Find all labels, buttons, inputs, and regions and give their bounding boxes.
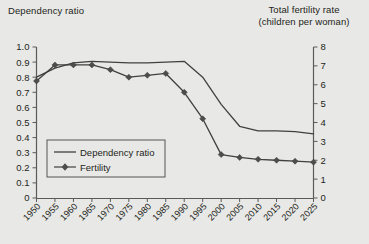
left-tick-label: 0.8 <box>16 72 29 83</box>
chart-legend: Dependency ratio Fertility <box>47 140 165 177</box>
right-tick-label: 2 <box>321 155 326 166</box>
left-tick-label: 1.0 <box>16 41 29 52</box>
x-tick-label: 1950 <box>21 201 42 222</box>
left-tick-label: 0.3 <box>16 147 29 158</box>
right-tick-label: 4 <box>321 117 326 128</box>
right-tick-label: 0 <box>321 192 326 203</box>
x-tick-label: 1970 <box>95 201 116 222</box>
right-axis-ticks: 876543210 <box>314 41 326 203</box>
left-tick-label: 0.7 <box>16 87 29 98</box>
right-tick-label: 6 <box>321 79 326 90</box>
series-line-dependency-ratio <box>37 61 314 133</box>
chart-figure: Dependency ratio Total fertility rate (c… <box>0 0 369 244</box>
right-tick-label: 3 <box>321 136 326 147</box>
legend-label-fertility: Fertility <box>80 162 111 173</box>
x-tick-label: 2010 <box>243 201 264 222</box>
x-tick-label: 2020 <box>280 201 301 222</box>
x-tick-label: 1990 <box>169 201 190 222</box>
x-axis-ticks: 1950195519601965197019751980198519901995… <box>21 198 319 223</box>
chart-plot-area: 1.00.90.80.70.60.50.40.30.20.10 87654321… <box>0 0 369 244</box>
right-tick-label: 5 <box>321 98 326 109</box>
left-axis-ticks: 1.00.90.80.70.60.50.40.30.20.10 <box>16 41 36 203</box>
right-tick-label: 1 <box>321 174 326 185</box>
x-tick-label: 1955 <box>40 201 61 222</box>
x-tick-label: 2000 <box>206 201 227 222</box>
left-tick-label: 0.5 <box>16 117 29 128</box>
data-point-marker <box>255 156 261 162</box>
x-tick-label: 1975 <box>114 201 135 222</box>
x-tick-label: 1985 <box>150 201 171 222</box>
data-point-marker <box>218 152 224 158</box>
right-tick-label: 7 <box>321 60 326 71</box>
data-point-marker <box>274 157 280 163</box>
x-tick-label: 2025 <box>298 201 319 222</box>
x-tick-label: 1965 <box>77 201 98 222</box>
data-point-marker <box>89 62 95 68</box>
data-point-marker <box>292 158 298 164</box>
left-tick-label: 0.6 <box>16 102 29 113</box>
data-point-marker <box>237 154 243 160</box>
x-tick-label: 2015 <box>261 201 282 222</box>
x-tick-label: 1980 <box>132 201 153 222</box>
legend-label-dependency-ratio: Dependency ratio <box>80 147 154 158</box>
left-tick-label: 0 <box>24 192 29 203</box>
x-tick-label: 1995 <box>187 201 208 222</box>
left-tick-label: 0.2 <box>16 162 29 173</box>
right-tick-label: 8 <box>321 41 326 52</box>
left-tick-label: 0.4 <box>16 132 29 143</box>
x-tick-label: 1960 <box>58 201 79 222</box>
left-tick-label: 0.1 <box>16 177 29 188</box>
data-point-marker <box>107 67 113 73</box>
left-tick-label: 0.9 <box>16 57 29 68</box>
data-point-marker <box>144 72 150 78</box>
x-tick-label: 2005 <box>224 201 245 222</box>
data-point-marker <box>126 74 132 80</box>
